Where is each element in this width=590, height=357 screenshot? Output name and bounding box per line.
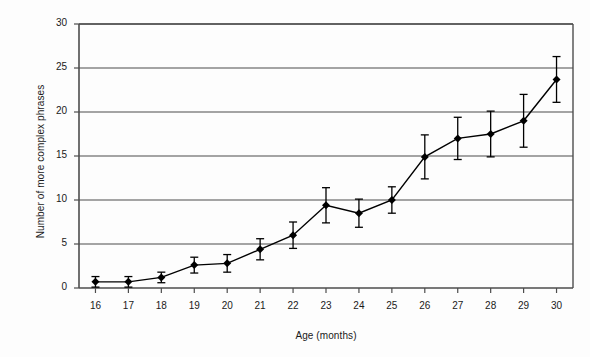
x-axis-tick-label: 17 [113,300,143,311]
x-axis-tick-label: 23 [311,300,341,311]
x-axis-tick-label: 25 [377,300,407,311]
x-axis-tick-label: 16 [80,300,110,311]
x-axis-tick-label: 27 [443,300,473,311]
x-axis-tick-label: 22 [278,300,308,311]
x-axis-tick-label: 21 [245,300,275,311]
x-axis-tick-label: 29 [509,300,539,311]
chart-figure: Number of more complex phrases Age (mont… [0,0,590,357]
x-axis-tick-label: 28 [476,300,506,311]
x-axis-tick-label: 20 [212,300,242,311]
x-axis-tick-label: 26 [410,300,440,311]
y-axis-tick-label: 10 [37,193,67,204]
y-axis-tick-label: 5 [37,237,67,248]
x-axis-title: Age (months) [79,330,573,341]
x-axis-tick-label: 19 [179,300,209,311]
y-axis-tick-label: 20 [37,105,67,116]
x-axis-tick-label: 24 [344,300,374,311]
y-axis-tick-label: 25 [37,61,67,72]
x-axis-tick-label: 18 [146,300,176,311]
x-axis-tick-label: 30 [542,300,572,311]
y-axis-tick-label: 30 [37,17,67,28]
y-axis-tick-label: 15 [37,149,67,160]
y-axis-tick-label: 0 [37,281,67,292]
